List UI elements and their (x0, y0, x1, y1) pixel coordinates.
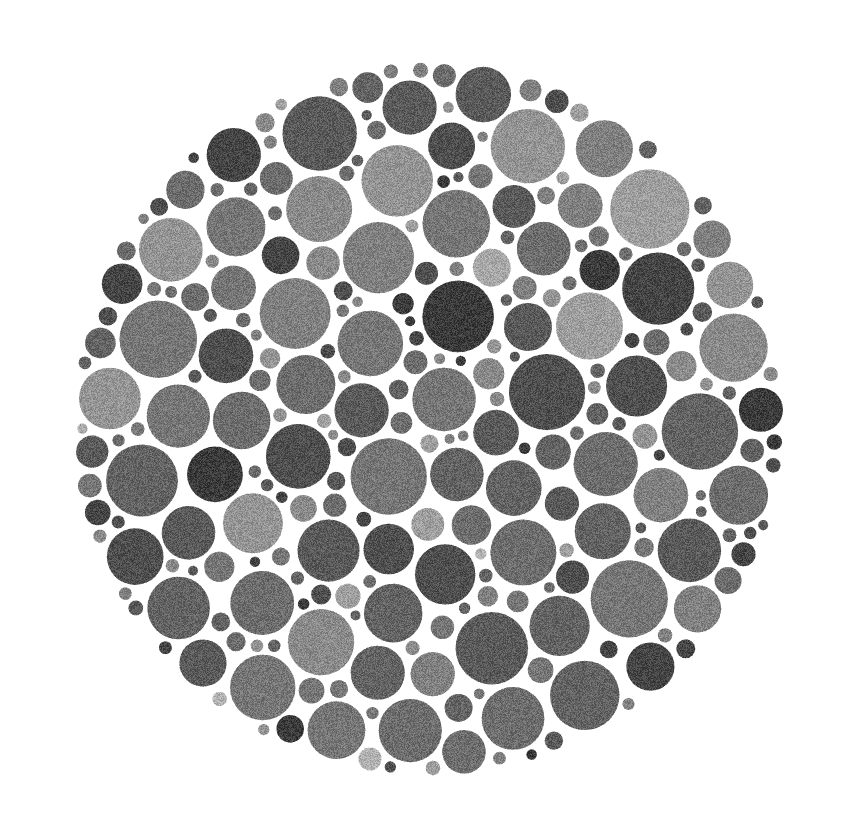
ishihara-plate-figure: A large circular field densely packed wi… (0, 0, 857, 826)
ishihara-plate-canvas (0, 0, 857, 826)
